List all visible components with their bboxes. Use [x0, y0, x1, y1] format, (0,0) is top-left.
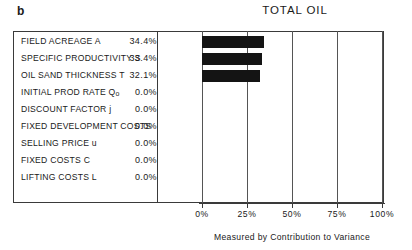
row-label: FIXED COSTS C	[21, 152, 90, 169]
row-label: DISCOUNT FACTOR j	[21, 101, 111, 118]
table-row: LIFTING COSTS L0.0%	[13, 169, 384, 186]
chart-rows: FIELD ACREAGE A34.4%SPECIFIC PRODUCTIVIT…	[13, 31, 384, 203]
row-value: 0.0%	[107, 135, 157, 152]
x-tick-label: 25%	[224, 208, 270, 220]
table-row: INITIAL PROD RATE Qo0.0%	[13, 84, 384, 101]
table-row: DISCOUNT FACTOR j0.0%	[13, 101, 384, 118]
panel-letter: b	[17, 4, 25, 18]
x-tick-label: 100%	[359, 208, 405, 220]
row-label: INITIAL PROD RATE Qo	[21, 84, 120, 101]
x-axis-caption: Measured by Contribution to Variance	[196, 231, 388, 243]
row-bar	[202, 70, 260, 82]
x-tick-label: 0%	[179, 208, 225, 220]
row-value: 0.0%	[107, 152, 157, 169]
row-value: 33.4%	[107, 50, 157, 67]
row-value: 34.4%	[107, 33, 157, 50]
table-row: SELLING PRICE u0.0%	[13, 135, 384, 152]
table-row: SPECIFIC PRODUCTIVITY S33.4%	[13, 50, 384, 67]
row-label: LIFTING COSTS L	[21, 169, 97, 186]
row-label: FIELD ACREAGE A	[21, 33, 101, 50]
row-bar	[202, 36, 264, 48]
row-value: 32.1%	[107, 67, 157, 84]
row-value: 0.0%	[107, 118, 157, 135]
table-row: FIXED DEVELOPMENT COSTS0.0%	[13, 118, 384, 135]
row-value: 0.0%	[107, 84, 157, 101]
row-value: 0.0%	[107, 169, 157, 186]
table-row: FIXED COSTS C0.0%	[13, 152, 384, 169]
tornado-chart-figure: b TOTAL OIL FIELD ACREAGE A34.4%SPECIFIC…	[0, 0, 412, 250]
table-row: OIL SAND THICKNESS T32.1%	[13, 67, 384, 84]
x-tick-label: 50%	[269, 208, 315, 220]
row-bar	[202, 53, 262, 65]
table-row: FIELD ACREAGE A34.4%	[13, 33, 384, 50]
x-tick-label: 75%	[314, 208, 360, 220]
row-label: SELLING PRICE u	[21, 135, 97, 152]
row-value: 0.0%	[107, 101, 157, 118]
chart-title: TOTAL OIL	[205, 3, 385, 17]
